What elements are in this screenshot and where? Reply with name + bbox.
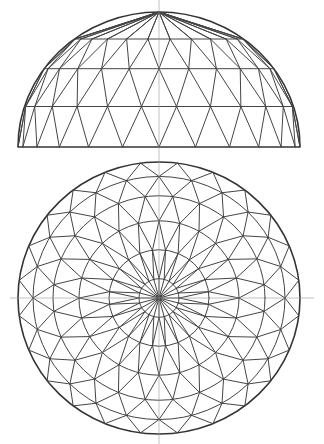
geodesic-dome-drawing (0, 0, 324, 444)
